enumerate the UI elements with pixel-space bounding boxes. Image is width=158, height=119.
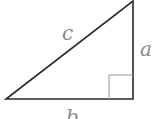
right-triangle-diagram: c a b bbox=[0, 0, 158, 119]
label-hypotenuse-c: c bbox=[62, 21, 73, 45]
right-angle-marker bbox=[109, 75, 133, 99]
label-leg-b: b bbox=[66, 105, 79, 119]
triangle bbox=[6, 1, 133, 99]
label-leg-a: a bbox=[140, 37, 152, 61]
